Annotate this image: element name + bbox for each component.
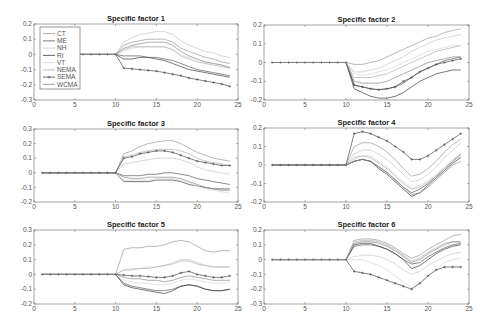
axes-frame [34,129,238,202]
y-tick-label: 0 [28,169,32,176]
figure: Specific factor 10510152025-0.3-0.2-0.10… [0,0,491,328]
y-tick-label: -0.1 [21,66,33,73]
y-tick-label: -0.1 [251,271,263,278]
legend-entry-ri: RI [57,52,64,59]
y-tick-label: -0.1 [251,180,263,187]
legend-entry-me: ME [57,37,67,44]
x-tick-label: 20 [424,203,432,210]
y-tick-label: 0.1 [23,256,32,263]
y-tick-label: 0 [28,271,32,278]
x-tick-label: 15 [383,101,391,108]
x-tick-label: 0 [262,305,266,312]
y-tick-label: 0 [258,256,262,263]
subplot-2: Specific factor 20510152025-0.2-0.100.10… [251,15,473,108]
x-tick-label: 20 [424,101,432,108]
y-tick-label: -0.2 [251,96,263,103]
x-tick-label: 5 [303,101,307,108]
y-tick-label: 0 [258,161,262,168]
x-tick-label: 0 [262,203,266,210]
x-tick-label: 15 [153,305,161,312]
x-tick-label: 20 [194,203,202,210]
y-tick-label: 0.2 [23,140,32,147]
y-tick-label: 0.1 [253,143,262,150]
subplot-title: Specific factor 6 [338,220,396,229]
x-tick-label: 5 [73,101,77,108]
axes-frame [34,230,238,304]
subplot-4: Specific factor 40510152025-0.2-0.100.10… [251,118,473,210]
x-tick-label: 10 [112,305,120,312]
y-tick-label: 0.1 [253,40,262,47]
x-tick-label: 20 [424,305,432,312]
y-tick-label: -0.2 [21,198,33,205]
subplot-title: Specific factor 1 [107,14,165,23]
subplot-6: Specific factor 60510152025-0.3-0.2-0.10… [251,220,473,312]
x-tick-label: 10 [342,305,350,312]
y-tick-label: -0.2 [21,300,33,307]
x-tick-label: 15 [383,203,391,210]
y-tick-label: 0.2 [253,124,262,131]
x-tick-label: 5 [303,203,307,210]
x-tick-label: 15 [153,203,161,210]
y-tick-label: 0 [28,51,32,58]
x-tick-label: 25 [465,305,473,312]
x-tick-label: 5 [73,305,77,312]
y-tick-label: -0.2 [251,198,263,205]
legend: CTMENHRIVTNEMASEMAWCMA [40,27,80,89]
x-tick-label: 25 [234,101,242,108]
x-tick-label: 0 [32,305,36,312]
y-tick-label: 0.2 [253,226,262,233]
x-tick-label: 0 [32,203,36,210]
x-tick-label: 10 [112,101,120,108]
y-tick-label: 0.2 [23,20,32,27]
y-tick-label: -0.2 [251,285,263,292]
subplot-1: Specific factor 10510152025-0.3-0.2-0.10… [21,14,242,108]
x-tick-label: 25 [465,203,473,210]
legend-entry-sema: SEMA [57,73,76,80]
subplot-title: Specific factor 2 [338,15,396,24]
x-tick-label: 25 [234,305,242,312]
y-tick-label: 0.3 [23,125,32,132]
x-tick-label: 0 [32,101,36,108]
x-tick-label: 25 [234,203,242,210]
x-tick-label: 20 [194,305,202,312]
y-tick-label: -0.1 [21,184,33,191]
y-tick-label: 0.1 [253,241,262,248]
x-tick-label: 15 [383,305,391,312]
subplot-5: Specific factor 50510152025-0.2-0.100.10… [21,220,242,312]
y-tick-label: -0.2 [21,81,33,88]
legend-entry-ct: CT [57,30,66,37]
x-tick-label: 5 [303,305,307,312]
legend-entry-wcma: WCMA [57,81,78,88]
subplot-title: Specific factor 3 [107,119,165,128]
y-tick-label: 0.1 [23,35,32,42]
subplot-title: Specific factor 4 [338,118,397,127]
y-tick-label: 0.1 [23,154,32,161]
x-tick-label: 5 [73,203,77,210]
y-tick-label: 0.3 [23,226,32,233]
y-tick-label: 0.2 [23,241,32,248]
legend-entry-vt: VT [57,59,65,66]
y-tick-label: 0.2 [253,21,262,28]
y-tick-label: -0.3 [251,300,263,307]
x-tick-label: 20 [194,101,202,108]
x-tick-label: 10 [342,101,350,108]
legend-entry-nh: NH [57,44,67,51]
x-tick-label: 0 [262,101,266,108]
y-tick-label: -0.1 [21,285,33,292]
subplot-title: Specific factor 5 [107,220,165,229]
x-tick-label: 15 [153,101,161,108]
x-tick-label: 10 [112,203,120,210]
x-tick-label: 25 [465,101,473,108]
subplot-3: Specific factor 30510152025-0.2-0.100.10… [21,119,242,210]
x-tick-label: 10 [342,203,350,210]
y-tick-label: -0.1 [251,77,263,84]
y-tick-label: -0.3 [21,96,33,103]
legend-entry-nema: NEMA [57,66,76,73]
y-tick-label: 0 [258,59,262,66]
